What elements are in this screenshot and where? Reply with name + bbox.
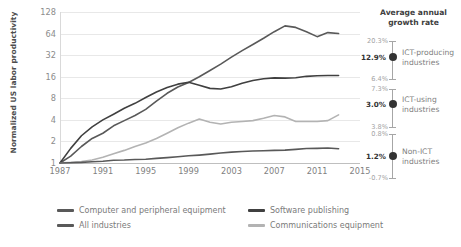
chart-legend: Computer and peripheral equipmentSoftwar… <box>0 200 461 247</box>
range-label-line2: industries <box>402 157 461 167</box>
range-mid-value: 1.2% <box>360 153 386 160</box>
series-line-all-industries <box>60 148 339 163</box>
legend-item[interactable]: Computer and peripheral equipment <box>57 206 226 215</box>
y-tick-8: 8 <box>30 94 56 102</box>
legend-label: All industries <box>79 221 131 230</box>
legend-item[interactable]: Software publishing <box>248 206 349 215</box>
growth-rate-title-line1: Average annual <box>380 8 447 17</box>
range-cap-low <box>389 79 396 80</box>
y-tick-128: 128 <box>30 8 56 16</box>
range-mid-value: 12.9% <box>360 54 386 61</box>
range-mid-value: 3.0% <box>360 101 386 108</box>
legend-swatch <box>248 224 265 226</box>
y-axis-title: Normalized US labor productivity <box>9 8 18 158</box>
legend-swatch <box>248 209 265 211</box>
growth-rate-title: Average annual growth rate <box>366 8 461 29</box>
range-label-line2: industries <box>402 58 461 68</box>
legend-label: Communications equipment <box>270 221 383 230</box>
legend-item[interactable]: All industries <box>57 221 131 230</box>
legend-label: Software publishing <box>270 206 349 215</box>
growth-rate-panel: Average annual growth rate 20.3%12.9%6.4… <box>362 0 461 195</box>
legend-label: Computer and peripheral equipment <box>79 206 226 215</box>
range-label-line1: ICT-producing <box>402 48 461 58</box>
range-label-line1: ICT-using <box>402 95 461 105</box>
y-tick-32: 32 <box>30 51 56 59</box>
range-bar <box>392 89 393 127</box>
y-tick-64: 64 <box>30 30 56 38</box>
y-tick-16: 16 <box>30 73 56 81</box>
range-label: ICT-usingindustries <box>402 95 461 115</box>
series-lines <box>60 0 360 175</box>
range-low-value: 6.4% <box>360 76 388 83</box>
range-label-line2: industries <box>402 105 461 115</box>
legend-swatch <box>57 209 74 211</box>
y-axis-tick-labels: 1248163264128 <box>30 0 56 175</box>
range-label: ICT-producingindustries <box>402 48 461 68</box>
range-cap-low <box>389 127 396 128</box>
range-cap-high <box>389 89 396 90</box>
legend-swatch <box>57 224 74 226</box>
growth-rate-title-line2: growth rate <box>388 18 439 27</box>
series-line-computer-and-peripheral-equipment <box>60 26 339 163</box>
y-tick-2: 2 <box>30 137 56 145</box>
range-high-value: 0.8% <box>360 131 388 138</box>
range-midpoint-dot <box>389 53 397 61</box>
legend-item[interactable]: Communications equipment <box>248 221 383 230</box>
range-label: Non-ICTindustries <box>402 147 461 167</box>
range-midpoint-dot <box>389 152 397 160</box>
range-label-line1: Non-ICT <box>402 147 461 157</box>
range-cap-low <box>389 178 396 179</box>
range-low-value: -0.7% <box>360 175 388 182</box>
range-cap-high <box>389 41 396 42</box>
range-high-value: 20.3% <box>360 38 388 45</box>
range-midpoint-dot <box>389 100 397 108</box>
range-cap-high <box>389 134 396 135</box>
y-tick-4: 4 <box>30 116 56 124</box>
range-high-value: 7.3% <box>360 86 388 93</box>
chart-root: Normalized US labor productivity 1248163… <box>0 0 461 247</box>
